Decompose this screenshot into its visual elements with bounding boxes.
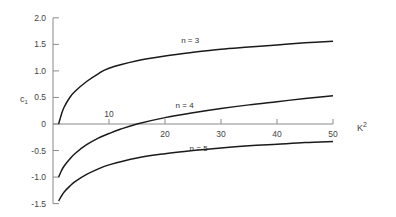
- x-tick-label: 30: [216, 129, 226, 139]
- y-tick-label: 2.0: [34, 13, 46, 23]
- y-tick-label: 0.5: [34, 92, 46, 102]
- y-tick-label: 1.5: [34, 39, 46, 49]
- y-tick-label: -0.5: [31, 146, 46, 156]
- x-tick-label: 20: [160, 129, 170, 139]
- curve-label: n = 5: [190, 144, 209, 153]
- y-tick-label: -1.5: [31, 199, 46, 209]
- x-tick-label: 40: [272, 129, 282, 139]
- x-axis-title: K2: [357, 121, 367, 133]
- y-tick-label: 0: [41, 119, 46, 129]
- y-axis-title: c1: [20, 94, 29, 105]
- curve-label: n = 3: [181, 36, 200, 45]
- y-tick-label: -1.0: [31, 172, 46, 182]
- y-tick-label: 1.0: [34, 66, 46, 76]
- curves: [59, 41, 333, 201]
- x-tick-label: 50: [328, 129, 338, 139]
- curve-label: n = 4: [176, 101, 195, 110]
- curve-n-4: [59, 96, 333, 177]
- x-tick-label: 10: [104, 109, 114, 119]
- chart: 2.01.51.00.50-0.5-1.0-1.51020304050 n = …: [0, 0, 396, 217]
- curve-n-3: [59, 41, 333, 124]
